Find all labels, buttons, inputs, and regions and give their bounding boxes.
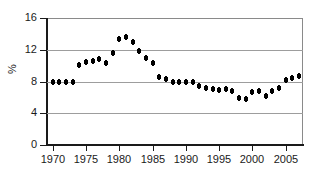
data-point (250, 90, 254, 94)
data-point (237, 96, 241, 100)
y-axis-tick-label: 16 (0, 12, 37, 23)
y-axis-tick (40, 145, 47, 146)
data-point (111, 51, 115, 55)
data-point (131, 40, 135, 44)
y-axis-tick (40, 113, 47, 114)
data-point (157, 75, 161, 79)
y-axis-tick (40, 18, 47, 19)
data-point (277, 86, 281, 90)
data-point (264, 94, 268, 98)
data-point (71, 80, 75, 84)
data-point (117, 37, 121, 41)
y-axis-tick-label: 4 (0, 107, 37, 118)
data-point (171, 80, 175, 84)
x-axis-tick (119, 146, 120, 151)
gridline (47, 50, 303, 51)
y-axis-tick-label: 8 (0, 76, 37, 87)
data-point (184, 80, 188, 84)
data-point (97, 57, 101, 61)
x-axis-tick (186, 146, 187, 151)
data-point (211, 87, 215, 91)
data-point (204, 86, 208, 90)
y-axis-tick (40, 82, 47, 83)
data-point (104, 61, 108, 65)
gridline (47, 82, 303, 83)
y-axis-tick-label: 12 (0, 44, 37, 55)
y-axis-tick-label: 0 (0, 139, 37, 150)
x-axis-tick (153, 146, 154, 151)
x-axis-tick (53, 146, 54, 151)
data-point (64, 80, 68, 84)
data-point (230, 89, 234, 93)
data-point (137, 49, 141, 53)
data-point (297, 74, 301, 78)
data-point (257, 89, 261, 93)
data-point (217, 88, 221, 92)
chart-container: 0481216 19701975198019851990199520002005… (0, 0, 312, 179)
y-axis-tick (40, 50, 47, 51)
y-axis-title: % (6, 64, 18, 74)
data-point (191, 80, 195, 84)
x-axis-tick (252, 146, 253, 151)
data-point (177, 80, 181, 84)
data-point (57, 80, 61, 84)
data-point (244, 97, 248, 101)
data-point (284, 78, 288, 82)
x-axis-line (46, 144, 304, 146)
data-point (144, 56, 148, 60)
x-axis-tick (219, 146, 220, 151)
gridline (47, 113, 303, 114)
data-point (270, 89, 274, 93)
data-point (77, 63, 81, 67)
x-axis-tick (286, 146, 287, 151)
x-axis-tick-label: 2005 (266, 153, 306, 165)
data-point (84, 60, 88, 64)
data-point (51, 80, 55, 84)
data-point (290, 76, 294, 80)
data-point (197, 84, 201, 88)
x-axis-tick (86, 146, 87, 151)
data-point (164, 77, 168, 81)
data-point (91, 59, 95, 63)
data-point (224, 87, 228, 91)
data-point (124, 35, 128, 39)
data-point (151, 61, 155, 65)
